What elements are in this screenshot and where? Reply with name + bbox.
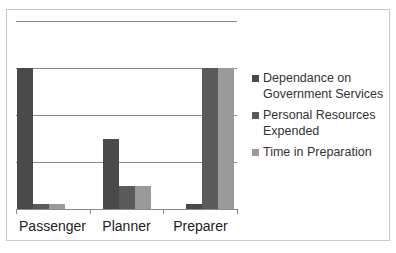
gridline: [16, 21, 237, 22]
x-label-passenger: Passenger: [16, 218, 89, 234]
legend: Dependance on Government Services Person…: [252, 70, 392, 165]
x-axis-line: [16, 209, 237, 210]
x-label-preparer: Preparer: [164, 218, 237, 234]
bar-planner-0: [103, 139, 119, 210]
bar-preparer-0: [186, 204, 202, 209]
legend-swatch-icon: [252, 112, 259, 119]
bar-planner-2: [135, 186, 151, 210]
legend-swatch-icon: [252, 149, 259, 156]
bar-passenger-2: [49, 204, 65, 209]
x-label-planner: Planner: [90, 218, 163, 234]
x-axis-tick: [16, 209, 17, 214]
legend-item-dependance: Dependance on Government Services: [252, 70, 392, 102]
bar-preparer-2: [218, 68, 234, 209]
x-axis-tick: [163, 209, 164, 214]
legend-label: Time in Preparation: [263, 144, 372, 160]
plot-area: [16, 21, 237, 209]
legend-label: Personal Resources Expended: [263, 107, 392, 139]
x-axis-tick: [237, 209, 238, 214]
bar-preparer-1: [202, 68, 218, 209]
bar-planner-1: [119, 186, 135, 210]
bar-passenger-1: [33, 204, 49, 209]
x-axis-tick: [90, 209, 91, 214]
legend-swatch-icon: [252, 75, 259, 82]
legend-label: Dependance on Government Services: [263, 70, 392, 102]
legend-item-personal-resources: Personal Resources Expended: [252, 107, 392, 139]
bar-passenger-0: [17, 68, 33, 209]
legend-item-time-preparation: Time in Preparation: [252, 144, 392, 160]
